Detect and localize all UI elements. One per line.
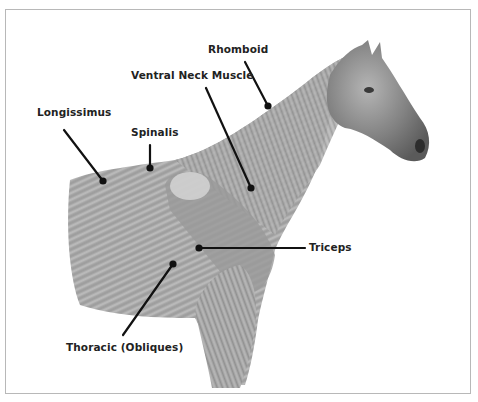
dot-spinalis: [146, 164, 153, 171]
label-rhomboid: Rhomboid: [208, 43, 268, 55]
dot-triceps: [195, 244, 202, 251]
label-triceps: Triceps: [309, 241, 352, 253]
dot-thoracic: [169, 260, 176, 267]
label-spinalis: Spinalis: [131, 126, 179, 138]
shoulder-highlight: [170, 172, 210, 200]
horse-nostril: [415, 139, 425, 153]
label-thoracic-obliques: Thoracic (Obliques): [66, 341, 183, 353]
dot-rhomboid: [264, 102, 271, 109]
horse-eye: [364, 87, 374, 93]
dot-longissimus: [99, 177, 106, 184]
label-longissimus: Longissimus: [37, 106, 111, 118]
horse-head-shape: [327, 40, 429, 161]
dot-ventral-neck-muscle: [247, 184, 254, 191]
label-ventral-neck-muscle: Ventral Neck Muscle: [131, 69, 253, 81]
